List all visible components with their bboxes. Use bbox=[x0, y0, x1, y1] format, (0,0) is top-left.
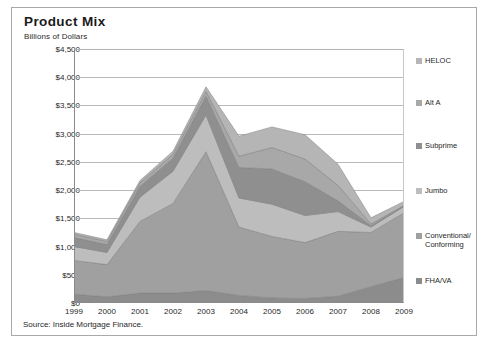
legend-swatch-icon bbox=[416, 100, 422, 106]
legend-swatch-icon bbox=[416, 233, 422, 239]
chart-legend: HELOCAlt ASubprimeJumboConventional/Conf… bbox=[416, 49, 476, 303]
legend-swatch-icon bbox=[416, 278, 422, 284]
legend-item[interactable]: Subprime bbox=[416, 142, 476, 151]
legend-swatch-icon bbox=[416, 58, 422, 64]
legend-item-label: Subprime bbox=[425, 142, 457, 151]
stacked-area-series bbox=[74, 49, 404, 303]
x-axis-tick-label: 2002 bbox=[164, 307, 182, 316]
x-axis-tick-label: 2005 bbox=[263, 307, 281, 316]
legend-item-label: HELOC bbox=[425, 57, 451, 66]
y-axis-tick-label: $3,500 bbox=[28, 101, 80, 110]
legend-item[interactable]: Jumbo bbox=[416, 187, 476, 196]
legend-item[interactable]: Conventional/Conforming bbox=[416, 232, 476, 249]
legend-swatch-icon bbox=[416, 188, 422, 194]
x-axis-tick-label: 2004 bbox=[230, 307, 248, 316]
y-axis-tick-label: $2,000 bbox=[28, 186, 80, 195]
source-note: Source: Inside Mortgage Finance. bbox=[23, 320, 143, 329]
legend-item-label: Alt A bbox=[425, 99, 440, 108]
x-axis-tick-label: 1999 bbox=[65, 307, 83, 316]
y-axis-tick-label: $2,500 bbox=[28, 157, 80, 166]
legend-item-label: Conventional/Conforming bbox=[425, 232, 476, 249]
x-axis-tick-label: 2009 bbox=[395, 307, 413, 316]
legend-item[interactable]: Alt A bbox=[416, 99, 476, 108]
x-axis-tick-label: 2001 bbox=[131, 307, 149, 316]
y-axis-tick-label: $4,500 bbox=[28, 45, 80, 54]
legend-item-label: FHA/VA bbox=[425, 277, 452, 286]
y-axis-tick-label: $4,000 bbox=[28, 73, 80, 82]
x-axis-tick-label: 2006 bbox=[296, 307, 314, 316]
page-title: Product Mix bbox=[24, 14, 106, 29]
chart-subtitle: Billions of Dollars bbox=[24, 32, 87, 41]
legend-item[interactable]: FHA/VA bbox=[416, 277, 476, 286]
x-axis-tick-label: 2003 bbox=[197, 307, 215, 316]
x-axis-tick-label: 2000 bbox=[98, 307, 116, 316]
legend-item[interactable]: HELOC bbox=[416, 57, 476, 66]
x-axis-tick-label: 2008 bbox=[362, 307, 380, 316]
y-axis-tick-label: $1,000 bbox=[28, 242, 80, 251]
chart-figure: Product Mix Billions of Dollars $0$500$1… bbox=[11, 7, 477, 336]
legend-swatch-icon bbox=[416, 143, 422, 149]
legend-item-label: Jumbo bbox=[425, 187, 448, 196]
plot-area bbox=[74, 49, 404, 303]
x-axis-tick-label: 2007 bbox=[329, 307, 347, 316]
y-axis-tick-label: $1,500 bbox=[28, 214, 80, 223]
y-axis-tick-label: $3,000 bbox=[28, 129, 80, 138]
y-axis-tick-label: $500 bbox=[28, 270, 80, 279]
